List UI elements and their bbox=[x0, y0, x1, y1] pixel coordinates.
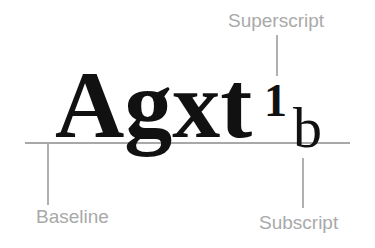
main-glyphs: Agxt bbox=[55, 57, 252, 153]
subscript-glyph: b bbox=[293, 99, 322, 157]
subscript-label: Subscript bbox=[259, 213, 338, 232]
superscript-pointer-line bbox=[276, 35, 278, 76]
subscript-pointer-line bbox=[302, 158, 304, 208]
superscript-glyph: 1 bbox=[264, 78, 287, 124]
baseline-pointer-line bbox=[47, 144, 49, 205]
superscript-label: Superscript bbox=[228, 11, 324, 30]
baseline-label: Baseline bbox=[36, 207, 109, 226]
